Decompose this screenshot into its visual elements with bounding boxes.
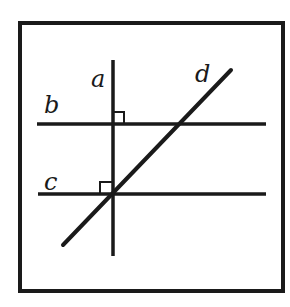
label-b: b [44,91,59,119]
label-c: c [44,168,57,196]
label-a: a [91,65,105,93]
right-angle-mark-ac [100,182,112,193]
right-angle-mark-ab [114,112,124,123]
line-d [63,70,231,245]
label-d: d [195,60,210,88]
diagram-frame [20,23,283,291]
geometry-diagram: a b c d [0,0,290,307]
